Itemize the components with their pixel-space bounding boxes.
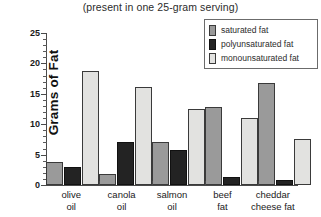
legend-item-saturated-fat: saturated fat bbox=[209, 23, 313, 37]
legend-label-saturated-fat: saturated fat bbox=[221, 25, 268, 35]
x-axis-line bbox=[46, 185, 298, 186]
bar bbox=[46, 162, 63, 185]
legend-item-polyunsaturated-fat: polyunsaturated fat bbox=[209, 37, 313, 51]
y-tick-label: 25 bbox=[18, 28, 40, 38]
chart-legend: saturated fat polyunsaturated fat monoun… bbox=[204, 19, 318, 69]
bar bbox=[135, 87, 152, 185]
x-axis-tick-labels: oliveoilcanolaoilsalmonoilbeeffatcheddar… bbox=[46, 189, 298, 217]
bar bbox=[117, 142, 134, 185]
bar bbox=[205, 107, 222, 185]
y-tick-label: 5 bbox=[18, 150, 40, 160]
bar bbox=[64, 167, 81, 185]
bar bbox=[276, 180, 293, 185]
y-tick-label: 15 bbox=[18, 89, 40, 99]
legend-swatch-icon-saturated-fat bbox=[209, 25, 216, 36]
y-tick-label: 0 bbox=[18, 180, 40, 190]
bar-group bbox=[99, 33, 152, 185]
bar bbox=[188, 109, 205, 185]
x-tick-label: cheddarcheese fat bbox=[248, 189, 298, 217]
legend-item-monounsaturated-fat: monounsaturated fat bbox=[209, 51, 313, 65]
x-tick-label: canolaoil bbox=[96, 189, 146, 217]
bar bbox=[241, 118, 258, 185]
legend-swatch-icon-polyunsaturated-fat bbox=[209, 39, 216, 50]
bar bbox=[152, 142, 169, 185]
y-tick-label: 20 bbox=[18, 58, 40, 68]
bar bbox=[170, 150, 187, 185]
bar bbox=[223, 177, 240, 185]
bar-group bbox=[152, 33, 205, 185]
legend-swatch-icon-monounsaturated-fat bbox=[209, 53, 216, 64]
x-tick-label: oliveoil bbox=[46, 189, 96, 217]
y-tick-major bbox=[41, 185, 47, 186]
y-tick-label: 10 bbox=[18, 119, 40, 129]
bar-group bbox=[46, 33, 99, 185]
bar bbox=[99, 174, 116, 185]
bar bbox=[258, 83, 275, 185]
legend-label-polyunsaturated-fat: polyunsaturated fat bbox=[221, 39, 293, 49]
bar bbox=[294, 139, 311, 185]
bar bbox=[82, 71, 99, 185]
x-tick-label: salmonoil bbox=[147, 189, 197, 217]
x-tick-label: beeffat bbox=[197, 189, 247, 217]
legend-label-monounsaturated-fat: monounsaturated fat bbox=[221, 53, 299, 63]
y-axis-tick-labels: 0510152025 bbox=[6, 0, 40, 217]
fat-content-bar-chart: (present in one 25-gram serving) Grams o… bbox=[0, 0, 321, 217]
chart-title: (present in one 25-gram serving) bbox=[0, 1, 321, 13]
